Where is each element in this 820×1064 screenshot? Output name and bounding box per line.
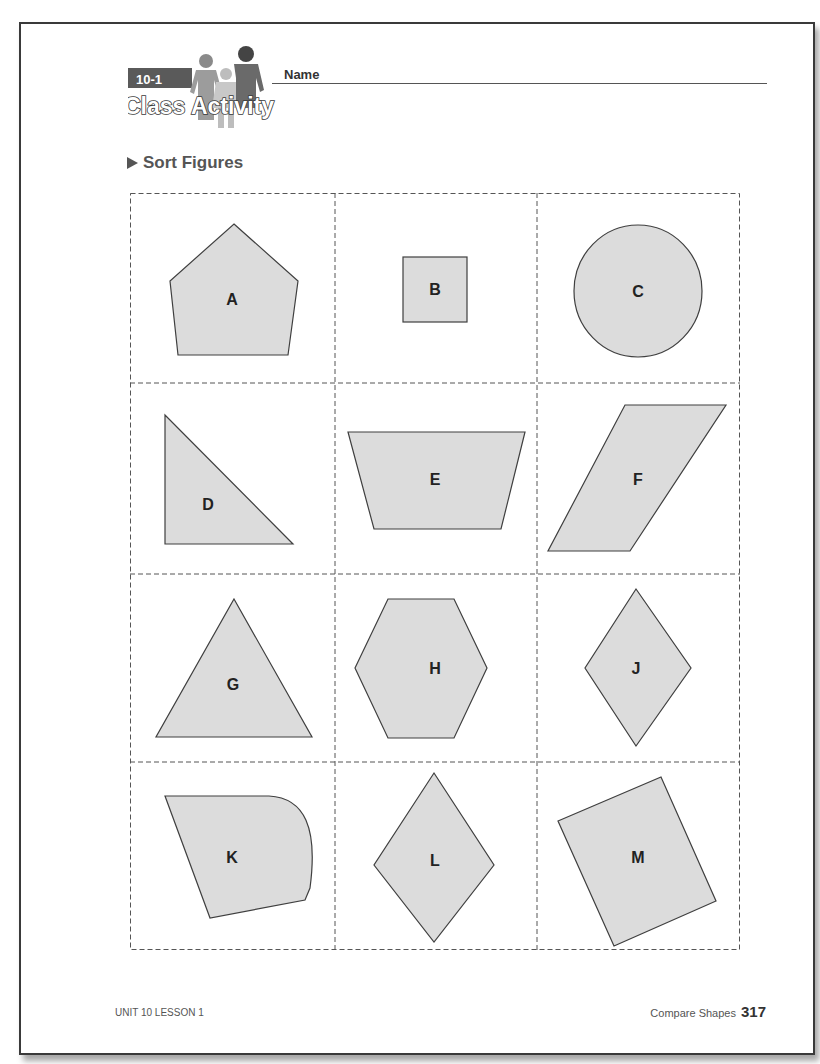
figure-label: G	[227, 676, 239, 694]
figure-k-curved-figure	[165, 796, 312, 918]
triangle-right-icon	[127, 157, 138, 169]
footer-page-info: Compare Shapes 317	[650, 1003, 766, 1020]
figure-label: K	[226, 849, 238, 867]
section-title-text: Sort Figures	[143, 153, 243, 173]
svg-text:Class Activity: Class Activity	[128, 93, 274, 119]
name-input-line[interactable]	[272, 83, 767, 84]
family-figures-icon: 10-1 Class Activity	[128, 42, 288, 132]
figure-a-pentagon	[170, 224, 298, 355]
figure-label: E	[430, 471, 441, 489]
footer-unit-lesson: UNIT 10 LESSON 1	[115, 1007, 204, 1018]
figure-label: H	[429, 660, 441, 678]
figures-grid: A B C D E F G H J K L M	[130, 193, 740, 950]
figure-h-hexagon	[355, 599, 487, 738]
page-number: 317	[741, 1003, 766, 1020]
name-label: Name	[284, 67, 319, 82]
footer-title: Compare Shapes	[650, 1007, 736, 1019]
figure-label: M	[631, 849, 644, 867]
figure-label: C	[632, 283, 644, 301]
figure-g-triangle	[156, 599, 312, 737]
figure-label: F	[633, 471, 643, 489]
section-title: Sort Figures	[127, 153, 243, 173]
figure-label: J	[632, 660, 641, 678]
class-activity-logo: 10-1 Class Activity	[128, 42, 288, 132]
figure-label: L	[430, 852, 440, 870]
figure-label: D	[202, 496, 214, 514]
figure-label: B	[429, 281, 441, 299]
figure-label: A	[226, 291, 238, 309]
figure-d-right-triangle	[165, 415, 293, 544]
svg-text:10-1: 10-1	[136, 72, 162, 87]
